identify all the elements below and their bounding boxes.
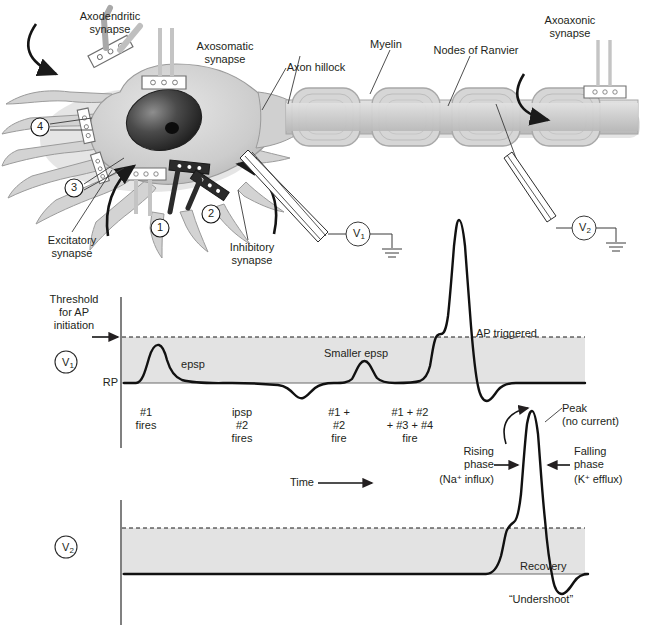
- v1-trace-subscript: 1: [69, 361, 73, 370]
- rising-phase-line1: Rising: [463, 445, 494, 457]
- falling-phase-line1: Falling: [574, 445, 606, 457]
- neuron-illustration: [2, 8, 640, 258]
- callout-number-3: 3: [65, 181, 83, 194]
- rising-phase-line2: phase: [464, 458, 494, 470]
- label-axoaxonic-synapse: Axoaxonicsynapse: [514, 14, 626, 40]
- label-nodes-of-ranvier: Nodes of Ranvier: [410, 44, 542, 57]
- label-threshold-for-ap-initiation: Thresholdfor APinitiation: [32, 293, 116, 332]
- event-label-1: #1fires: [116, 406, 176, 432]
- falling-phase-line3-post: efflux): [590, 473, 623, 485]
- nucleolus: [165, 122, 179, 134]
- event-label-2: ipsp#2fires: [215, 406, 269, 445]
- v2-trace-subscript: 2: [69, 546, 73, 555]
- label-axosomatic-synapse: Axosomaticsynapse: [168, 40, 282, 66]
- label-inhibitory-synapse: Inhibitorysynapse: [196, 241, 308, 267]
- annotation-undershoot: “Undershoot”: [494, 593, 588, 606]
- annotation-falling-phase: Fallingphase(K+ efflux): [574, 445, 652, 486]
- rising-phase-line3-post: influx): [462, 473, 494, 485]
- callout-number-4: 4: [31, 120, 49, 133]
- figure-root: Axodendriticsynapse Axosomaticsynapse Ax…: [0, 0, 652, 642]
- ground-symbol-v1: [382, 249, 402, 257]
- callout-number-2: 2: [202, 207, 220, 220]
- v1-trace-badge: V1: [57, 356, 79, 372]
- annotation-smaller-epsp: Smaller epsp: [312, 347, 400, 360]
- event-label-4: #1 + #2+ #3 + #4fire: [372, 406, 448, 445]
- label-excitatory-synapse: Excitatorysynapse: [16, 234, 128, 260]
- label-rp: RP: [94, 376, 118, 389]
- voltmeter-v2-label: V2: [575, 221, 595, 237]
- rising-phase-line3-pre: (Na: [439, 473, 457, 485]
- axon-overlay: [286, 103, 638, 131]
- peak-leader-line: [545, 408, 562, 422]
- electrode-v2-pipette: [504, 152, 556, 222]
- annotation-epsp: epsp: [170, 358, 216, 371]
- label-axon-hillock: Axon hillock: [270, 61, 362, 74]
- ground-symbol-v2: [606, 243, 626, 251]
- annotation-ap-triggered: AP triggered: [476, 327, 564, 340]
- annotation-recovery: Recovery: [520, 560, 584, 573]
- v2-band: [122, 528, 585, 574]
- voltmeter-v1-label: V1: [349, 227, 369, 243]
- annotation-rising-phase: Risingphase(Na+ influx): [420, 445, 494, 486]
- voltmeter-v2-subscript: 2: [586, 226, 590, 235]
- axodendritic-pointer-arrow: [28, 24, 56, 74]
- callout-number-1: 1: [151, 221, 169, 234]
- voltmeter-v1-subscript: 1: [360, 232, 364, 241]
- falling-phase-line3-pre: (K: [574, 473, 585, 485]
- event-label-3: #1 +#2fire: [312, 406, 366, 445]
- myelin-leader: [370, 50, 390, 94]
- falling-phase-line2: phase: [574, 458, 604, 470]
- label-myelin: Myelin: [356, 38, 416, 51]
- annotation-peak: Peak(no current): [562, 402, 648, 428]
- label-axodendritic-synapse: Axodendriticsynapse: [54, 10, 166, 36]
- label-time-axis: Time: [278, 476, 314, 489]
- v2-trace-badge: V2: [57, 541, 79, 557]
